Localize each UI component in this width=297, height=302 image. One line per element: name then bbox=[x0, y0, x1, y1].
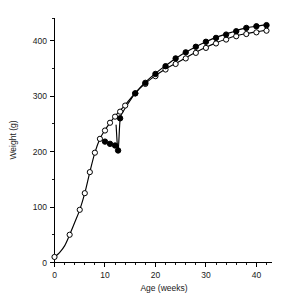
data-point-open bbox=[254, 30, 259, 35]
chart-plot-area: 0100200300400 010203040 Age (weeks) Weig… bbox=[0, 0, 297, 302]
data-point-filled bbox=[112, 143, 117, 148]
filled-circle-fit bbox=[116, 25, 266, 151]
data-point-open bbox=[87, 170, 92, 175]
data-point-open bbox=[173, 61, 178, 66]
data-point-filled bbox=[153, 71, 158, 76]
data-point-open bbox=[52, 254, 57, 259]
data-point-filled bbox=[193, 44, 198, 49]
y-tick-label: 0 bbox=[42, 258, 47, 268]
data-point-open bbox=[77, 207, 82, 212]
data-point-filled bbox=[115, 148, 120, 153]
data-point-open bbox=[213, 41, 218, 46]
x-tick-label: 30 bbox=[201, 270, 211, 280]
data-point-filled bbox=[173, 56, 178, 61]
y-axis-ticks bbox=[50, 19, 55, 263]
data-point-filled bbox=[163, 63, 168, 68]
data-point-open bbox=[102, 128, 107, 133]
data-point-filled bbox=[203, 39, 208, 44]
series-open-circles bbox=[52, 28, 269, 259]
data-point-filled bbox=[117, 116, 122, 121]
y-axis-tick-labels: 0100200300400 bbox=[33, 36, 47, 268]
x-axis-ticks bbox=[55, 263, 267, 268]
y-tick-label: 200 bbox=[33, 147, 47, 157]
data-point-filled bbox=[183, 50, 188, 55]
x-tick-label: 20 bbox=[151, 270, 161, 280]
data-point-filled bbox=[264, 22, 269, 27]
data-point-open bbox=[82, 191, 87, 196]
x-axis-title: Age (weeks) bbox=[140, 283, 187, 293]
x-tick-label: 0 bbox=[52, 270, 57, 280]
fitted-curves bbox=[55, 25, 267, 257]
x-tick-label: 10 bbox=[100, 270, 110, 280]
y-tick-label: 400 bbox=[33, 36, 47, 46]
data-point-open bbox=[118, 109, 123, 114]
data-point-filled bbox=[133, 91, 138, 96]
y-tick-label: 100 bbox=[33, 202, 47, 212]
series-filled-circles bbox=[102, 22, 269, 153]
data-point-open bbox=[264, 28, 269, 33]
data-point-filled bbox=[234, 29, 239, 34]
open-circle-fit bbox=[55, 30, 267, 257]
y-tick-label: 300 bbox=[33, 91, 47, 101]
x-tick-label: 40 bbox=[252, 270, 262, 280]
data-point-open bbox=[183, 56, 188, 61]
data-point-open bbox=[203, 45, 208, 50]
y-axis-title: Weight (g) bbox=[8, 120, 18, 159]
axis-lines bbox=[54, 18, 272, 263]
data-point-filled bbox=[244, 25, 249, 30]
data-point-open bbox=[193, 50, 198, 55]
growth-chart-figure: 0100200300400 010203040 Age (weeks) Weig… bbox=[0, 0, 297, 302]
data-point-open bbox=[123, 103, 128, 108]
data-point-open bbox=[244, 31, 249, 36]
data-point-filled bbox=[143, 80, 148, 85]
x-axis-tick-labels: 010203040 bbox=[52, 270, 261, 280]
data-point-filled bbox=[223, 32, 228, 37]
data-point-open bbox=[92, 150, 97, 155]
data-point-open bbox=[67, 232, 72, 237]
data-point-filled bbox=[213, 35, 218, 40]
data-point-open bbox=[97, 136, 102, 141]
data-point-open bbox=[112, 114, 117, 119]
data-point-filled bbox=[254, 24, 259, 29]
data-point-open bbox=[107, 120, 112, 125]
